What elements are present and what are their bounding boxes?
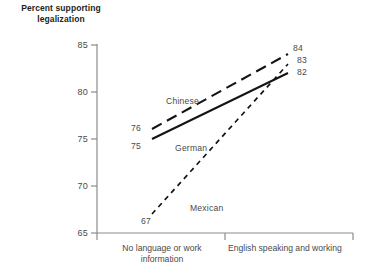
figure-caption (28, 270, 348, 277)
point-label-right-mexican: 83 (297, 55, 307, 65)
series-label-german: German (175, 143, 207, 153)
chart-container: Percent supporting legalization 85 80 75… (0, 0, 366, 277)
series-label-chinese: Chinese (166, 96, 199, 106)
point-label-left-chinese: 76 (131, 123, 141, 133)
point-label-left-mexican: 67 (141, 216, 151, 226)
point-label-left-german: 75 (131, 141, 141, 151)
x-label-line1: No language or work (122, 243, 201, 253)
chart-plot-svg (0, 0, 366, 277)
series-line-german (152, 73, 288, 139)
y-tick-label-80: 80 (66, 87, 88, 97)
y-tick-label-65: 65 (66, 228, 88, 238)
x-tick-label-no-language: No language or work information (107, 243, 217, 265)
series-line-chinese (152, 54, 288, 129)
series-line-mexican (152, 64, 288, 214)
x-label-line2: information (141, 254, 184, 264)
point-label-right-chinese: 84 (293, 43, 303, 53)
x-label2-line1: English speaking and working (228, 243, 342, 253)
series-label-mexican: Mexican (190, 203, 223, 213)
y-tick-label-85: 85 (66, 40, 88, 50)
y-tick-label-70: 70 (66, 181, 88, 191)
point-label-right-german: 82 (297, 67, 307, 77)
y-tick-label-75: 75 (66, 134, 88, 144)
x-tick-label-english-working: English speaking and working (228, 243, 366, 254)
